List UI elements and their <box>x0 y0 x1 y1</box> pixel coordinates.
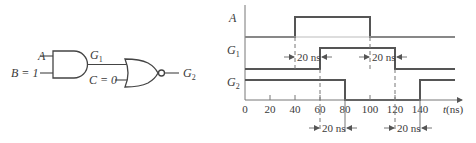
g2-gate-label: G2 <box>183 66 196 82</box>
axis-tick-labels: 0 20 40 60 80 100 120 140 <box>242 103 429 115</box>
svg-text:20 ns: 20 ns <box>322 122 346 134</box>
input-c-label: C = 0 <box>89 73 117 87</box>
input-b-label: B = 1 <box>11 66 38 80</box>
tick-label: 40 <box>290 103 302 115</box>
signal-label-g1: G1 <box>227 43 240 59</box>
delay-annotation-g2-rise: 20 ns <box>384 122 432 134</box>
tick-label: 20 <box>265 103 277 115</box>
delay-annotation-g1-rise: 20 ns <box>284 51 332 63</box>
signal-label-g2: G2 <box>227 75 240 91</box>
nor-gate-icon <box>125 59 158 87</box>
logic-diagram: A B = 1 G1 C = 0 G2 A G1 G2 <box>0 0 476 143</box>
tick-label: 100 <box>362 103 379 115</box>
time-axis-label: t(ns) <box>443 103 464 116</box>
and-gate-icon <box>53 51 87 78</box>
g1-gate-label: G1 <box>90 48 103 64</box>
waveform-g1 <box>245 48 455 69</box>
waveform-a <box>245 17 455 37</box>
svg-text:20 ns: 20 ns <box>372 51 396 63</box>
tick-label: 0 <box>242 103 248 115</box>
circuit-schematic: A B = 1 G1 C = 0 G2 <box>11 48 196 87</box>
svg-text:20 ns: 20 ns <box>297 51 321 63</box>
inverter-bubble-icon <box>159 70 165 76</box>
timing-diagram: A G1 G2 0 20 40 60 80 100 120 140 t( <box>227 5 464 134</box>
delay-annotation-g1-fall: 20 ns <box>359 51 407 63</box>
waveform-g2 <box>245 80 455 100</box>
svg-text:20 ns: 20 ns <box>397 122 421 134</box>
signal-label-a: A <box>228 11 237 25</box>
delay-annotation-g2-fall: 20 ns <box>309 122 357 134</box>
